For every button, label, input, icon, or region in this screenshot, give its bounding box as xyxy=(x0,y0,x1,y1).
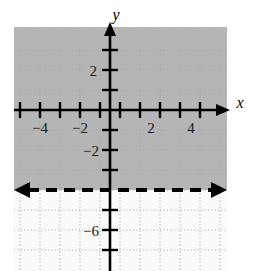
y-tick-label-pos2: 2 xyxy=(90,63,98,79)
inequality-graph-figure: −4 −2 2 4 2 −2 −6 y x xyxy=(0,0,257,271)
coordinate-plane: −4 −2 2 4 2 −2 −6 y x xyxy=(0,0,257,271)
x-axis-label: x xyxy=(235,94,243,111)
y-tick-label-neg6: −6 xyxy=(83,223,99,239)
y-tick-label-neg2: −2 xyxy=(83,143,99,159)
x-tick-label-neg2: −2 xyxy=(72,120,88,136)
x-tick-label-pos2: 2 xyxy=(147,120,155,136)
x-tick-label-neg4: −4 xyxy=(32,120,48,136)
x-tick-label-pos4: 4 xyxy=(187,120,195,136)
y-axis-label: y xyxy=(110,6,120,24)
